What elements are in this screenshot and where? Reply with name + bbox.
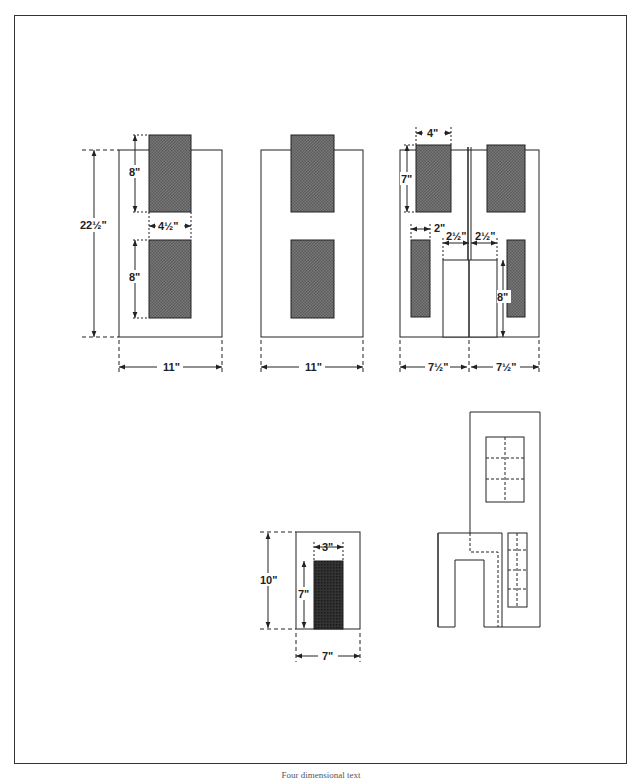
svg-text:8": 8": [129, 271, 140, 283]
window-bottom: [291, 240, 334, 318]
figure-caption: Four dimensional text: [0, 770, 642, 780]
assembled-facade: [438, 412, 540, 627]
svg-text:7": 7": [298, 588, 309, 600]
svg-text:3": 3": [322, 541, 333, 553]
side-window-left: [411, 240, 430, 317]
door: [314, 561, 343, 629]
svg-text:11": 11": [163, 361, 180, 373]
middle-panel: [261, 135, 363, 337]
svg-text:7½": 7½": [496, 361, 517, 373]
svg-text:11": 11": [305, 361, 322, 373]
svg-text:2": 2": [434, 222, 445, 234]
svg-text:22½": 22½": [80, 219, 107, 231]
svg-text:10": 10": [260, 574, 277, 586]
svg-text:8": 8": [497, 291, 508, 303]
right-panel: [400, 145, 539, 337]
svg-text:7½": 7½": [428, 361, 449, 373]
svg-text:2½": 2½": [475, 230, 496, 242]
window-bottom: [149, 240, 191, 318]
svg-text:7": 7": [322, 650, 333, 662]
top-window-right: [487, 145, 525, 212]
side-window-right: [507, 240, 525, 317]
svg-text:4½": 4½": [158, 220, 179, 232]
window-top: [149, 135, 191, 212]
svg-text:4": 4": [427, 127, 438, 139]
svg-text:7": 7": [401, 173, 412, 185]
window-top: [291, 135, 334, 212]
svg-text:2½": 2½": [446, 230, 467, 242]
top-window-left: [416, 145, 451, 212]
svg-text:8": 8": [129, 166, 140, 178]
door-opening: [443, 260, 497, 337]
